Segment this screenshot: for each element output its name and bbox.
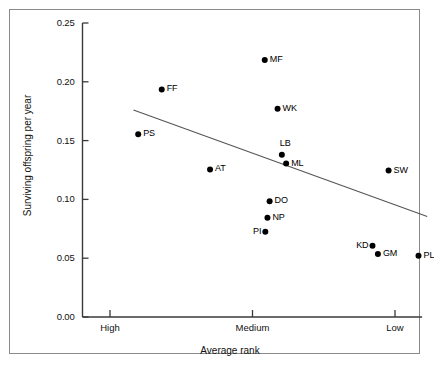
data-point-marker xyxy=(264,215,270,221)
axes-group xyxy=(83,23,423,317)
data-point-label: NP xyxy=(272,212,284,222)
y-tick-label: 0.25 xyxy=(41,17,75,28)
data-point-marker xyxy=(135,131,141,137)
data-point-label: ML xyxy=(291,158,303,168)
x-tick-label: Low xyxy=(365,322,425,333)
x-tick-label: High xyxy=(80,322,140,333)
data-point-label: DO xyxy=(275,195,288,205)
x-tick-label: Medium xyxy=(223,322,283,333)
y-tick-label: 0.20 xyxy=(41,76,75,87)
data-point-label: FF xyxy=(167,83,178,93)
data-point-label: WK xyxy=(283,103,297,113)
x-axis-title: Average rank xyxy=(150,345,310,356)
data-point-label: PS xyxy=(143,128,155,138)
data-point-label: PL xyxy=(424,250,434,260)
data-point-label: GM xyxy=(383,248,397,258)
y-axis-title: Surviving offspring per year xyxy=(22,81,33,231)
data-point-marker xyxy=(262,57,268,63)
data-point-marker xyxy=(267,198,273,204)
data-point-marker xyxy=(159,86,165,92)
data-point-label: MF xyxy=(270,54,283,64)
data-point-label: SW xyxy=(394,165,408,175)
data-point-label: AT xyxy=(215,163,226,173)
y-tick-label: 0.10 xyxy=(41,193,75,204)
data-point-marker xyxy=(375,251,381,257)
y-tick-label: 0.15 xyxy=(41,135,75,146)
data-point-marker xyxy=(369,243,375,249)
data-point-marker xyxy=(275,106,281,112)
data-point-marker xyxy=(279,152,285,158)
data-point-marker xyxy=(207,166,213,172)
data-point-label: KD xyxy=(352,240,368,250)
data-point-marker xyxy=(283,161,289,167)
data-point-marker xyxy=(386,168,392,174)
data-point-label: PI xyxy=(245,226,261,236)
y-tick-label: 0.00 xyxy=(41,311,75,322)
data-point-marker xyxy=(262,229,268,235)
y-tick-label: 0.05 xyxy=(41,252,75,263)
data-point-marker xyxy=(416,253,422,259)
data-point-label: LB xyxy=(280,138,291,148)
